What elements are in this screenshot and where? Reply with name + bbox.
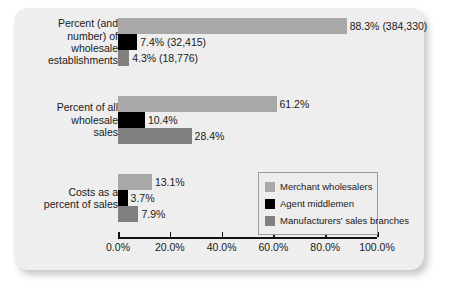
bar-2-1: [118, 128, 192, 144]
category-label: Costs as apercent of sales: [18, 186, 118, 211]
bar-0-2: [118, 174, 152, 190]
chart-legend: Merchant wholesalersAgent middlemenManuf…: [258, 172, 378, 235]
category-label-line: percent of sales: [18, 198, 118, 210]
category-label: Percent (andnumber) ofwholesaleestablish…: [18, 17, 118, 67]
legend-label: Merchant wholesalers: [280, 181, 372, 192]
bar-value-label: 3.7%: [131, 190, 155, 206]
category-label-line: wholesale: [18, 114, 118, 126]
category-label-line: wholesale: [18, 42, 118, 54]
bar-1-0: [118, 34, 137, 50]
category-label-line: establishments: [18, 54, 118, 66]
x-axis-tick-label: 100.0%: [359, 241, 395, 253]
chart-panel: Percent (andnumber) ofwholesaleestablish…: [14, 8, 424, 270]
bar-1-2: [118, 190, 128, 206]
category-label-line: number) of: [18, 30, 118, 42]
bar-1-1: [118, 112, 145, 128]
legend-item: Agent middlemen: [265, 195, 371, 212]
bar-value-label: 28.4%: [195, 128, 225, 144]
bar-value-label: 61.2%: [280, 96, 310, 112]
category-label-line: Percent (and: [18, 17, 118, 29]
legend-item: Merchant wholesalers: [265, 178, 371, 195]
bar-value-label: 88.3% (384,330): [350, 18, 428, 34]
bar-0-1: [118, 96, 277, 112]
bar-0-0: [118, 18, 347, 34]
x-axis-tick-label: 40.0%: [207, 241, 237, 253]
x-axis-tick-label: 80.0%: [310, 241, 340, 253]
x-axis-tick-label: 60.0%: [259, 241, 289, 253]
x-axis-tick-label: 0.0%: [106, 241, 130, 253]
legend-item: Manufacturers' sales branches: [265, 212, 371, 229]
bar-value-label: 13.1%: [155, 174, 185, 190]
category-label-line: Percent of all: [18, 101, 118, 113]
bar-value-label: 7.9%: [141, 206, 165, 222]
bar-2-0: [118, 50, 129, 66]
bar-value-label: 7.4% (32,415): [140, 34, 206, 50]
legend-swatch-icon: [265, 216, 275, 226]
x-axis-tick-label: 20.0%: [155, 241, 185, 253]
bar-value-label: 10.4%: [148, 112, 178, 128]
category-label-line: Costs as a: [18, 186, 118, 198]
bar-value-label: 4.3% (18,776): [132, 50, 198, 66]
category-label-line: sales: [18, 126, 118, 138]
legend-label: Agent middlemen: [280, 198, 354, 209]
x-axis-line: [118, 237, 377, 239]
category-label: Percent of allwholesalesales: [18, 101, 118, 138]
legend-swatch-icon: [265, 182, 275, 192]
legend-label: Manufacturers' sales branches: [280, 215, 409, 226]
bar-2-2: [118, 206, 138, 222]
legend-swatch-icon: [265, 199, 275, 209]
